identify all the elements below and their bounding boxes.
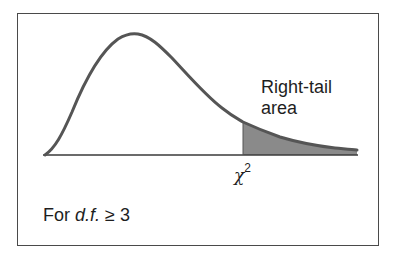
df-prefix: For [43, 205, 75, 225]
right-tail-label-line2: area [261, 98, 332, 119]
df-condition: ≥ 3 [100, 205, 130, 225]
right-tail-area-label: Right-tail area [261, 77, 332, 119]
degrees-of-freedom-note: For d.f. ≥ 3 [43, 205, 130, 225]
right-tail-shaded-area [243, 122, 357, 155]
right-tail-label-line1: Right-tail [261, 77, 332, 98]
chi-square-critical-value-label: χ2 [234, 160, 251, 185]
df-variable: d.f. [75, 205, 100, 225]
chi-symbol: χ [234, 165, 244, 185]
chi-exponent: 2 [244, 161, 251, 175]
